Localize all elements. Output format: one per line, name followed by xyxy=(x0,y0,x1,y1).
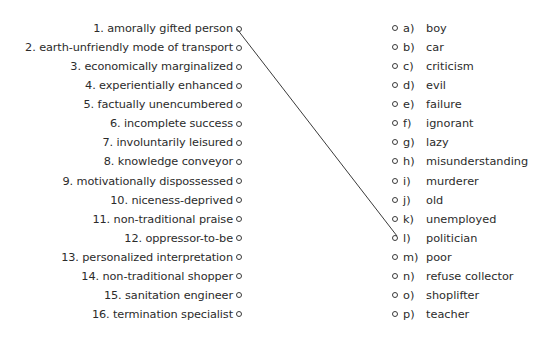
left-item-5[interactable]: 5. factually unencumbered xyxy=(0,95,242,114)
connector-circle-icon[interactable] xyxy=(236,121,242,127)
option-label: boy xyxy=(426,22,447,35)
right-item-i[interactable]: i)murderer xyxy=(392,172,539,191)
right-item-g[interactable]: g)lazy xyxy=(392,133,539,152)
connector-circle-icon[interactable] xyxy=(236,159,242,165)
right-item-a[interactable]: a)boy xyxy=(392,19,539,38)
left-item-2[interactable]: 2. earth-unfriendly mode of transport xyxy=(0,38,242,57)
left-item-13[interactable]: 13. personalized interpretation xyxy=(0,248,242,267)
right-item-e[interactable]: e)failure xyxy=(392,95,539,114)
connector-circle-icon[interactable] xyxy=(392,273,398,279)
connector-circle-icon[interactable] xyxy=(236,45,242,51)
connector-circle-icon[interactable] xyxy=(392,63,398,69)
term-label: 4. experientially enhanced xyxy=(85,79,233,92)
option-letter: g) xyxy=(403,133,426,152)
option-letter: e) xyxy=(403,95,426,114)
right-item-k[interactable]: k)unemployed xyxy=(392,210,539,229)
left-item-15[interactable]: 15. sanitation engineer xyxy=(0,286,242,305)
term-label: 9. motivationally dispossessed xyxy=(63,175,233,188)
connector-circle-icon[interactable] xyxy=(236,235,242,241)
left-item-3[interactable]: 3. economically marginalized xyxy=(0,57,242,76)
option-letter: k) xyxy=(403,210,426,229)
option-label: criticism xyxy=(426,60,474,73)
connector-circle-icon[interactable] xyxy=(392,25,398,31)
connector-circle-icon[interactable] xyxy=(236,311,242,317)
option-label: lazy xyxy=(426,136,449,149)
left-item-1[interactable]: 1. amorally gifted person xyxy=(0,19,242,38)
connector-circle-icon[interactable] xyxy=(236,83,242,89)
left-item-12[interactable]: 12. oppressor-to-be xyxy=(0,229,242,248)
connector-circle-icon[interactable] xyxy=(236,102,242,108)
option-label: ignorant xyxy=(426,117,474,130)
option-letter: a) xyxy=(403,19,426,38)
term-label: 5. factually unencumbered xyxy=(84,98,234,111)
term-label: 1. amorally gifted person xyxy=(93,22,233,35)
option-letter: p) xyxy=(403,305,426,324)
left-item-9[interactable]: 9. motivationally dispossessed xyxy=(0,172,242,191)
option-label: evil xyxy=(426,79,446,92)
right-item-d[interactable]: d)evil xyxy=(392,76,539,95)
connector-circle-icon[interactable] xyxy=(236,254,242,260)
option-label: unemployed xyxy=(426,213,496,226)
option-letter: i) xyxy=(403,172,426,191)
connector-circle-icon[interactable] xyxy=(236,26,242,32)
connector-circle-icon[interactable] xyxy=(392,254,398,260)
term-label: 15. sanitation engineer xyxy=(104,289,233,302)
connector-circle-icon[interactable] xyxy=(392,139,398,145)
option-letter: o) xyxy=(403,286,426,305)
right-item-l[interactable]: l)politician xyxy=(392,229,539,248)
left-item-8[interactable]: 8. knowledge conveyor xyxy=(0,152,242,171)
connector-circle-icon[interactable] xyxy=(392,311,398,317)
right-item-f[interactable]: f)ignorant xyxy=(392,114,539,133)
option-letter: b) xyxy=(403,38,426,57)
option-label: teacher xyxy=(426,308,469,321)
right-item-m[interactable]: m)poor xyxy=(392,248,539,267)
right-item-h[interactable]: h)misunderstanding xyxy=(392,152,539,171)
connector-circle-icon[interactable] xyxy=(236,178,242,184)
connector-circle-icon[interactable] xyxy=(392,235,398,241)
left-column-terms: 1. amorally gifted person 2. earth-unfri… xyxy=(0,19,242,324)
connector-circle-icon[interactable] xyxy=(236,292,242,298)
connector-circle-icon[interactable] xyxy=(236,197,242,203)
right-item-c[interactable]: c)criticism xyxy=(392,57,539,76)
connector-circle-icon[interactable] xyxy=(392,216,398,222)
connector-circle-icon[interactable] xyxy=(392,197,398,203)
connector-circle-icon[interactable] xyxy=(392,292,398,298)
connector-circle-icon[interactable] xyxy=(236,64,242,70)
connector-circle-icon[interactable] xyxy=(236,140,242,146)
right-item-j[interactable]: j)old xyxy=(392,191,539,210)
connector-circle-icon[interactable] xyxy=(392,120,398,126)
option-label: failure xyxy=(426,98,462,111)
left-item-11[interactable]: 11. non-traditional praise xyxy=(0,210,242,229)
left-item-10[interactable]: 10. niceness-deprived xyxy=(0,191,242,210)
connector-circle-icon[interactable] xyxy=(392,44,398,50)
term-label: 14. non-traditional shopper xyxy=(81,270,233,283)
option-letter: d) xyxy=(403,76,426,95)
option-label: old xyxy=(426,194,443,207)
connector-circle-icon[interactable] xyxy=(392,82,398,88)
connector-circle-icon[interactable] xyxy=(392,158,398,164)
connector-circle-icon[interactable] xyxy=(392,178,398,184)
connector-circle-icon[interactable] xyxy=(392,101,398,107)
left-item-4[interactable]: 4. experientially enhanced xyxy=(0,76,242,95)
option-letter: n) xyxy=(403,267,426,286)
term-label: 2. earth-unfriendly mode of transport xyxy=(25,41,233,54)
term-label: 11. non-traditional praise xyxy=(92,213,233,226)
left-item-16[interactable]: 16. termination specialist xyxy=(0,305,242,324)
connector-circle-icon[interactable] xyxy=(236,273,242,279)
option-label: shoplifter xyxy=(426,289,479,302)
right-item-p[interactable]: p)teacher xyxy=(392,305,539,324)
left-item-14[interactable]: 14. non-traditional shopper xyxy=(0,267,242,286)
left-item-6[interactable]: 6. incomplete success xyxy=(0,114,242,133)
right-item-n[interactable]: n)refuse collector xyxy=(392,267,539,286)
term-label: 10. niceness-deprived xyxy=(110,194,233,207)
connector-circle-icon[interactable] xyxy=(236,216,242,222)
right-item-o[interactable]: o)shoplifter xyxy=(392,286,539,305)
right-item-b[interactable]: b)car xyxy=(392,38,539,57)
left-item-7[interactable]: 7. involuntarily leisured xyxy=(0,133,242,152)
option-letter: l) xyxy=(403,229,426,248)
option-letter: m) xyxy=(403,248,426,267)
option-letter: f) xyxy=(403,114,426,133)
option-letter: h) xyxy=(403,152,426,171)
term-label: 12. oppressor-to-be xyxy=(124,232,233,245)
option-label: poor xyxy=(426,251,452,264)
